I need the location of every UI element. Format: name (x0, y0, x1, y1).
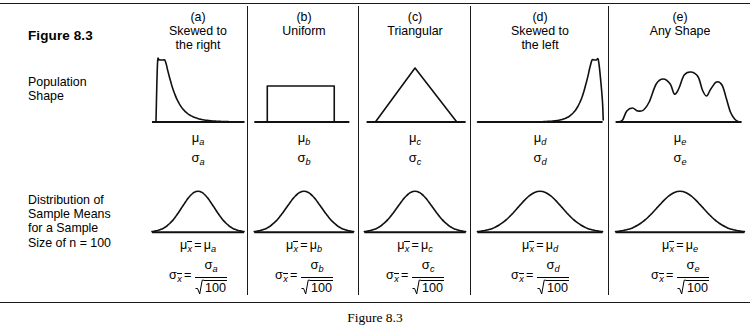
population-mu-c: μc (360, 130, 470, 150)
column-a: (a) Skewed to the rightμaσaμx=μaσx=σa100 (148, 0, 248, 336)
mean-formula-c: μx=μc (360, 238, 470, 257)
standard-error-formula-d: σx=σd100 (472, 258, 608, 295)
row-label-sample-means: Distribution of Sample Means for a Sampl… (28, 193, 111, 250)
population-parameters-a: μaσa (148, 130, 248, 170)
population-shape-curve-e (610, 52, 750, 128)
population-shape-curve-d (472, 52, 608, 128)
population-shape-curve-a (148, 52, 248, 128)
population-sigma-a: σa (148, 150, 248, 170)
population-parameters-b: μbσb (250, 130, 358, 170)
column-title-a: (a) Skewed to the right (148, 10, 248, 53)
sampling-formulas-d: μx=μdσx=σd100 (472, 238, 608, 295)
row-label-population-shape: Population Shape (28, 75, 87, 103)
figure-header-label: Figure 8.3 (28, 28, 93, 43)
column-title-b: (b) Uniform (250, 10, 358, 38)
standard-error-formula-b: σx=σb100 (250, 258, 358, 295)
mean-formula-b: μx=μb (250, 238, 358, 257)
population-shape-curve-b (250, 52, 358, 128)
population-sigma-d: σd (472, 150, 608, 170)
population-sigma-b: σb (250, 150, 358, 170)
figure-8-3: Figure 8.3 Population Shape Distribution… (0, 0, 750, 336)
column-b: (b) Uniformμbσbμx=μbσx=σb100 (250, 0, 358, 336)
sampling-formulas-e: μx=μeσx=σe100 (610, 238, 750, 295)
sampling-distribution-curve-b (250, 180, 358, 236)
population-parameters-d: μdσd (472, 130, 608, 170)
standard-error-formula-c: σx=σc100 (360, 258, 470, 295)
population-parameters-e: μeσe (610, 130, 750, 170)
population-shape-curve-c (360, 52, 470, 128)
column-divider-3 (470, 6, 471, 295)
sampling-distribution-curve-e (610, 180, 750, 236)
population-mu-d: μd (472, 130, 608, 150)
sampling-formulas-b: μx=μbσx=σb100 (250, 238, 358, 295)
sampling-formulas-c: μx=μcσx=σc100 (360, 238, 470, 295)
mean-formula-a: μx=μa (148, 238, 248, 257)
sampling-distribution-curve-a (148, 180, 248, 236)
sampling-formulas-a: μx=μaσx=σa100 (148, 238, 248, 295)
population-parameters-c: μcσc (360, 130, 470, 170)
sampling-distribution-curve-c (360, 180, 470, 236)
column-divider-4 (608, 6, 609, 295)
column-title-c: (c) Triangular (360, 10, 470, 38)
standard-error-formula-a: σx=σa100 (148, 258, 248, 295)
population-mu-a: μa (148, 130, 248, 150)
column-d: (d) Skewed to the leftμdσdμx=μdσx=σd100 (472, 0, 608, 336)
column-divider-2 (358, 6, 359, 295)
column-e: (e) Any Shapeμeσeμx=μeσx=σe100 (610, 0, 750, 336)
standard-error-formula-e: σx=σe100 (610, 258, 750, 295)
mean-formula-d: μx=μd (472, 238, 608, 257)
population-sigma-e: σe (610, 150, 750, 170)
population-mu-e: μe (610, 130, 750, 150)
column-c: (c) Triangularμcσcμx=μcσx=σc100 (360, 0, 470, 336)
mean-formula-e: μx=μe (610, 238, 750, 257)
sampling-distribution-curve-d (472, 180, 608, 236)
figure-bottom-caption: Figure 8.3 (0, 310, 750, 326)
column-title-d: (d) Skewed to the left (472, 10, 608, 53)
column-title-e: (e) Any Shape (610, 10, 750, 38)
population-mu-b: μb (250, 130, 358, 150)
population-sigma-c: σc (360, 150, 470, 170)
